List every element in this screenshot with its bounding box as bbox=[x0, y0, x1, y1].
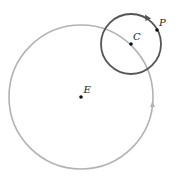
point-C bbox=[129, 42, 133, 46]
large-circle-direction-arrow-icon bbox=[150, 101, 155, 107]
point-E bbox=[79, 95, 83, 99]
label-P: P bbox=[158, 17, 166, 28]
point-P bbox=[155, 28, 159, 32]
orbit-diagram: E C P bbox=[0, 0, 178, 180]
label-E: E bbox=[83, 84, 92, 95]
label-C: C bbox=[133, 31, 141, 42]
